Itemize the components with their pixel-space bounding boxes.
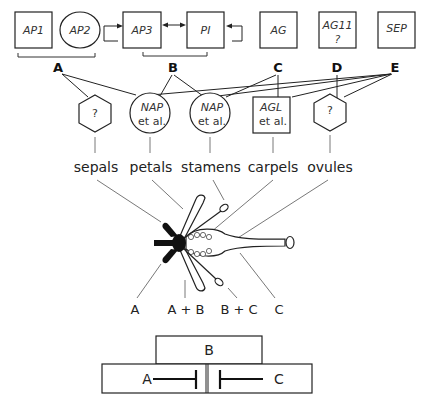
target-organ-connectors [95,135,330,153]
gene-pi-label: PI [201,24,211,37]
ap2-to-ap3-feedback-arrow [104,24,123,42]
gene-pi: PI [187,12,224,48]
target-agl-label: AGL [259,101,282,114]
target-nap-label: NAP [141,101,164,114]
target-unknown-label: ? [92,107,98,120]
receptacle [172,234,186,252]
abc-model-a-label: A [142,371,152,387]
arrowhead-icon [226,24,232,29]
abc-model: B A C [102,336,312,393]
target-nap-stamens: NAP et al. [190,93,230,133]
organ-label-petals: petals [130,159,173,175]
whorl-label-c: C [274,302,283,317]
group-label-e: E [391,60,400,75]
arrowhead-icon [162,23,168,28]
target-hexagon-ovules: ? [314,94,346,131]
whorl-label-a-plus-b: A + B [168,302,205,317]
gene-ag11-label: AG11 [321,19,352,32]
group-label-a: A [53,60,63,75]
target-hexagon-sepals: ? [79,95,111,132]
pi-autoregulation-arrow [226,24,242,42]
target-etal-label: et al. [138,115,166,128]
gene-ap1-label: AP1 [22,24,44,37]
group-target-connectors [62,74,392,99]
gene-ag-label: AG [269,24,286,37]
target-etal-label: et al. [198,115,226,128]
gene-ap3: AP3 [123,12,161,48]
abc-model-b-label: B [204,342,214,358]
organ-label-sepals: sepals [74,159,119,175]
target-nap-label: NAP [201,101,224,114]
target-nap-petals: NAP et al. [130,93,170,133]
abc-model-c-label: C [274,371,284,387]
arrowhead-icon [117,24,123,29]
gene-ag11: AG11 ? [319,12,356,48]
ap3-pi-double-arrow [162,23,186,28]
group-label-c: C [273,60,283,75]
gene-ag11-question: ? [335,33,341,46]
gene-ap2: AP2 [60,12,100,48]
sepal-upper [162,223,178,237]
stigma [286,237,294,249]
whorl-label-b-plus-c: B + C [220,302,257,317]
gene-ap3-label: AP3 [130,24,152,37]
target-unknown-label: ? [327,104,333,117]
group-label-b: B [168,60,178,75]
abcde-flower-model-diagram: AP1 AP2 AP3 PI AG AG11 ? SEP A [0,0,423,403]
flower-whorl-leaders [137,253,275,298]
pedicel [154,240,174,246]
bracket-a [18,53,95,57]
target-agl-carpels: AGL et al. [253,97,290,133]
bracket-b [143,52,207,56]
target-etal-label: et al. [259,115,287,128]
gene-sep: SEP [378,12,415,48]
flower-illustration [154,195,294,291]
sepal-lower [162,249,178,263]
gene-ap1: AP1 [15,12,52,48]
organ-label-stamens: stamens [181,159,241,175]
gene-ag: AG [260,12,297,48]
gene-sep-label: SEP [386,22,407,35]
group-label-d: D [332,60,343,75]
gene-ap2-label: AP2 [68,24,90,37]
arrowhead-icon [180,23,186,28]
organ-label-carpels: carpels [248,159,299,175]
organ-label-ovules: ovules [307,159,353,175]
whorl-label-a: A [131,302,140,317]
